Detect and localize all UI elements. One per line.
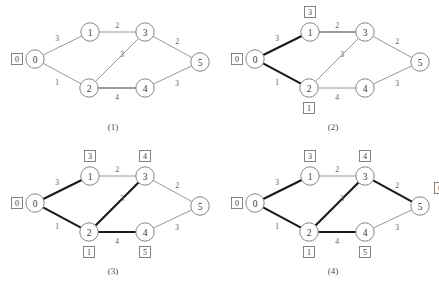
node-label-1: 1 [88,172,93,182]
edge-weight-2-3: 3 [120,50,124,59]
distance-box-node-4: 5 [140,247,151,258]
distance-box-value-0: 0 [15,199,19,208]
edge-weight-1-3: 2 [335,165,339,174]
edge-weight-2-4: 4 [115,237,119,246]
edge-weight-3-5: 2 [395,181,399,190]
edge-weight-2-4: 4 [335,237,339,246]
edge-4-5 [373,66,411,84]
edge-weight-2-4: 4 [335,93,339,102]
node-label-2: 2 [307,84,312,94]
edge-weight-2-3: 3 [340,50,344,59]
node-5: 5 [411,53,429,71]
node-0: 0 [26,194,44,212]
node-0: 0 [246,194,264,212]
edge-3-5 [373,36,412,57]
edge-0-1 [263,36,301,55]
edge-4-5 [153,210,191,228]
node-label-4: 4 [363,84,368,94]
edge-weight-3-5: 2 [175,181,179,190]
distance-box-node-0: 0 [232,54,243,65]
node-label-3: 3 [143,28,148,38]
distance-box-node-2: 1 [84,247,95,258]
panel-caption-2: (2) [328,122,339,132]
distance-box-node-0: 0 [232,198,243,209]
edge-0-2 [263,207,301,227]
distance-box-value-0: 0 [235,55,239,64]
node-4: 4 [356,223,374,241]
node-4: 4 [136,79,154,97]
distance-box-value-2: 1 [87,248,91,257]
node-3: 3 [136,167,154,185]
edge-2-3 [316,183,359,226]
edge-0-2 [43,207,81,227]
node-5: 5 [191,197,209,215]
panel-caption-3: (3) [108,266,119,276]
node-5: 5 [191,53,209,71]
node-2: 2 [300,223,318,241]
node-1: 1 [301,167,319,185]
node-label-5: 5 [418,202,423,212]
panel-2: 3123423012345031(2) [220,0,439,144]
edge-weight-0-1: 3 [275,34,279,43]
edge-weight-4-5: 3 [175,223,179,232]
distance-box-value-4: 5 [143,248,147,257]
edge-weight-4-5: 3 [175,79,179,88]
node-label-0: 0 [33,199,38,209]
node-label-4: 4 [143,84,148,94]
edge-2-3 [96,39,139,82]
edge-weight-2-3: 3 [120,194,124,203]
figure-container: 31234230123450(1)3123423012345031(2)3123… [0,0,439,288]
distance-box-value-3: 4 [363,152,367,161]
panel-4: 3123423012345031456(4) [220,144,439,288]
distance-box-node-2: 1 [304,247,315,258]
distance-box-node-1: 3 [305,7,316,18]
node-label-3: 3 [143,172,148,182]
distance-box-value-3: 4 [143,152,147,161]
edge-weight-1-3: 2 [115,165,119,174]
edge-weight-4-5: 3 [395,223,399,232]
distance-box-node-3: 4 [360,151,371,162]
edge-0-2 [43,63,81,83]
edge-weight-1-3: 2 [335,21,339,30]
edge-weight-3-5: 2 [395,37,399,46]
node-label-0: 0 [33,55,38,65]
edge-2-3 [316,39,359,82]
distance-box-node-2: 1 [304,103,315,114]
distance-box-value-0: 0 [15,55,19,64]
panel-caption-1: (1) [108,122,119,132]
edge-3-5 [373,180,412,201]
distance-box-node-3: 4 [140,151,151,162]
node-label-5: 5 [418,58,423,68]
edge-weight-2-4: 4 [115,93,119,102]
distance-box-value-1: 3 [88,152,92,161]
distance-box-node-0: 0 [12,198,23,209]
node-5: 5 [411,197,429,215]
node-2: 2 [300,79,318,97]
node-label-0: 0 [253,199,258,209]
node-label-4: 4 [363,228,368,238]
edge-weight-1-3: 2 [115,21,119,30]
edge-weight-0-1: 3 [55,34,59,43]
edge-weight-2-3: 3 [340,194,344,203]
edge-weight-4-5: 3 [395,79,399,88]
node-label-5: 5 [198,58,203,68]
distance-box-node-4: 5 [360,247,371,258]
node-label-4: 4 [143,228,148,238]
distance-box-node-5: 6 [435,183,439,194]
distance-box-value-2: 1 [307,248,311,257]
node-label-1: 1 [88,28,93,38]
node-2: 2 [80,79,98,97]
node-3: 3 [356,23,374,41]
node-label-1: 1 [308,172,313,182]
node-0: 0 [246,50,264,68]
edge-3-5 [153,36,192,57]
edge-4-5 [373,210,411,228]
distance-box-value-2: 1 [307,104,311,113]
node-label-3: 3 [363,28,368,38]
node-label-0: 0 [253,55,258,65]
edge-weight-0-1: 3 [55,178,59,187]
distance-box-value-1: 3 [308,152,312,161]
edge-weight-0-2: 1 [275,78,279,87]
edge-3-5 [153,180,192,201]
edge-0-2 [263,63,301,83]
